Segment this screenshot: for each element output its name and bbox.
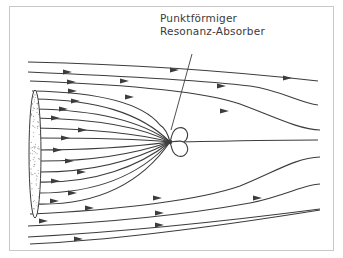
streamline bbox=[170, 140, 318, 142]
leader-line bbox=[171, 54, 192, 130]
streamline bbox=[34, 99, 170, 142]
arrow-icon bbox=[283, 75, 292, 80]
arrow-icon bbox=[120, 78, 129, 83]
arrow-icon bbox=[67, 79, 76, 84]
streamline-diagram bbox=[0, 0, 343, 258]
arrow-icon bbox=[65, 158, 74, 163]
label-line-1: Punktförmiger bbox=[160, 12, 265, 25]
arrow-icon bbox=[39, 218, 48, 223]
streamline bbox=[34, 138, 170, 142]
arrow-icon bbox=[51, 178, 60, 183]
arrow-icon bbox=[77, 169, 86, 174]
arrow-icon bbox=[220, 108, 229, 113]
label-line-2: Resonanz-Absorber bbox=[160, 25, 265, 38]
absorber-ellipse bbox=[29, 90, 41, 218]
arrow-icon bbox=[71, 98, 80, 103]
streamline bbox=[28, 209, 320, 237]
arrow-icon bbox=[125, 94, 134, 99]
streamline bbox=[30, 157, 320, 214]
streamline bbox=[30, 210, 320, 244]
arrow-icon bbox=[53, 147, 62, 152]
focal-point bbox=[168, 140, 173, 145]
absorber-label: Punktförmiger Resonanz-Absorber bbox=[160, 12, 265, 38]
arrow-icon bbox=[78, 127, 87, 132]
arrow-icon bbox=[217, 83, 226, 88]
arrow-icon bbox=[253, 195, 262, 200]
streamline bbox=[30, 81, 320, 130]
arrow-icon bbox=[61, 135, 70, 140]
arrow-icon bbox=[51, 115, 60, 120]
arrow-icon bbox=[50, 198, 59, 203]
arrow-icon bbox=[153, 195, 162, 200]
streamline bbox=[28, 184, 320, 226]
arrow-icon bbox=[155, 210, 164, 215]
